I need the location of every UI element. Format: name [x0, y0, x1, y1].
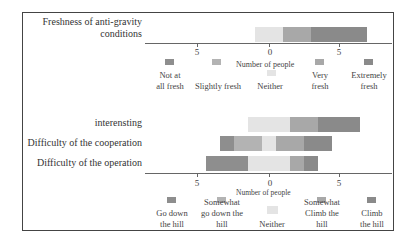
x-tick-label: 5: [187, 178, 207, 188]
legend-swatch-extremely-fresh: [364, 59, 373, 65]
row-label-freshness: Freshness of anti-gravity conditions: [43, 16, 142, 40]
legend-swatch-not-at-all-fresh: [165, 59, 174, 65]
legend-swatch-go-down: [167, 197, 176, 203]
x-axis-title: Number of people: [236, 60, 294, 69]
row-label-operation: Difficulty of the operation: [37, 157, 142, 169]
bar-segment: [304, 136, 332, 151]
bar-segment: [304, 156, 318, 171]
bar-segment: [276, 136, 304, 151]
row-label-line2: conditions: [43, 28, 142, 40]
legend-label-extremely-fresh: Extremelyfresh: [339, 70, 399, 92]
legend-swatch-neither: [267, 70, 276, 76]
x-axis-title: Number of people: [236, 188, 291, 197]
legend-swatch-slightly-fresh: [212, 59, 221, 65]
x-tick: [269, 173, 270, 177]
bar-segment: [234, 136, 262, 151]
bar-segment: [206, 156, 248, 171]
x-tick-label: 5: [329, 47, 349, 57]
bar-segment: [311, 27, 367, 42]
legend-swatch-very-fresh: [315, 59, 324, 65]
legend-swatch-climb: [367, 197, 376, 203]
legend-swatch-neither: [267, 206, 278, 214]
bar-segment: [290, 117, 318, 132]
x-tick-label: 5: [187, 47, 207, 57]
bar-segment: [220, 136, 234, 151]
x-tick: [339, 173, 340, 177]
bar-segment: [248, 156, 290, 171]
bar-segment: [290, 156, 304, 171]
row-label-line1: Freshness of anti-gravity: [43, 16, 142, 28]
x-tick-label: 0: [260, 178, 280, 188]
bar-segment: [262, 136, 276, 151]
bar-segment: [255, 27, 283, 42]
bar-segment: [248, 117, 290, 132]
x-tick: [197, 173, 198, 177]
x-tick-label: 0: [260, 47, 280, 57]
bar-segment: [283, 27, 311, 42]
row-label-interesting: interensting: [95, 117, 142, 129]
legend-label-climb: Climbthe hill: [342, 208, 402, 230]
bar-segment: [318, 117, 360, 132]
legend-label-slightly-fresh: Slightly fresh: [188, 81, 248, 92]
row-label-cooperation: Difficulty of the cooperation: [27, 137, 142, 149]
x-tick-label: 5: [329, 178, 349, 188]
